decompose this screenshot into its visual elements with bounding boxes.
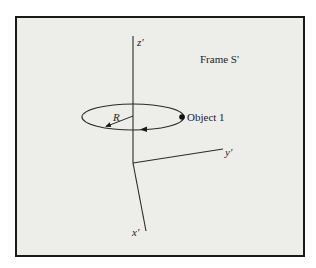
orbit-direction-arrow-icon xyxy=(140,127,147,133)
object-1-dot xyxy=(179,114,185,120)
x-axis-label: x′ xyxy=(131,226,140,238)
y-axis-label: y′ xyxy=(224,146,233,158)
x-axis xyxy=(133,163,146,231)
frame-diagram: z′ Frame S' R Object 1 y′ x′ xyxy=(0,0,316,268)
frame-title: Frame S' xyxy=(200,53,239,65)
radius-label: R xyxy=(112,111,120,123)
y-axis xyxy=(133,149,223,163)
object-label: Object 1 xyxy=(187,111,225,123)
z-axis-label: z′ xyxy=(136,36,144,48)
